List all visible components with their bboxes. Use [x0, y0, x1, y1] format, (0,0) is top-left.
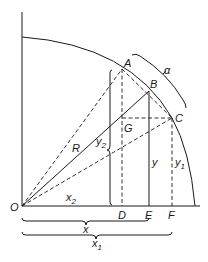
radius-ob	[22, 91, 149, 206]
circle-arc	[22, 37, 195, 206]
point-o-label: O	[10, 201, 19, 213]
point-a-label: A	[123, 57, 131, 69]
x-label: x	[82, 223, 89, 235]
x1-label: x1	[91, 237, 102, 252]
point-c-label: C	[175, 112, 183, 124]
diagram-canvas: O A B C G D E F α R y2 y y1 x2 x x1	[0, 0, 208, 262]
alpha-arc	[132, 54, 186, 108]
x2-label: x2	[65, 191, 77, 206]
point-f-label: F	[168, 209, 176, 221]
point-b-label: B	[150, 78, 157, 90]
point-d-label: D	[118, 209, 126, 221]
point-e-label: E	[145, 209, 153, 221]
alpha-label: α	[164, 64, 171, 76]
radius-label: R	[72, 142, 80, 154]
y1-label: y1	[174, 156, 185, 171]
point-g-label: G	[124, 122, 133, 134]
y-label: y	[151, 156, 159, 168]
y2-label: y2	[95, 135, 107, 150]
line-oa	[22, 69, 122, 206]
arc-geometry-diagram: O A B C G D E F α R y2 y y1 x2 x x1	[0, 0, 208, 262]
y2-bracket	[107, 70, 112, 205]
